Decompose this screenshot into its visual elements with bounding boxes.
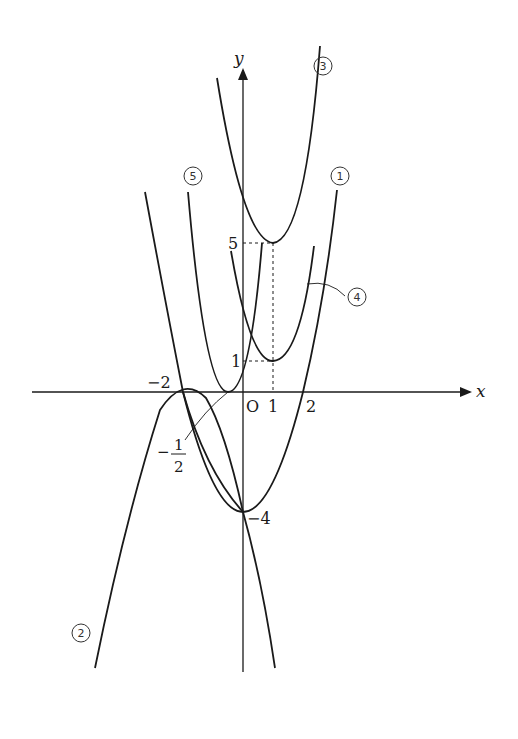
tick-y-5: 5 [228, 234, 238, 253]
curve-steep [145, 192, 275, 668]
curve-3 [217, 46, 320, 243]
x-axis-label: x [476, 381, 486, 401]
svg-text:2: 2 [78, 627, 85, 640]
frac-sign: − [157, 443, 170, 461]
frac-numerator: 1 [174, 436, 184, 454]
tick-y-neg4: −4 [247, 509, 271, 528]
frac-denominator: 2 [174, 458, 184, 476]
curve-label-5: 5 [184, 167, 202, 185]
tick-y-1: 1 [231, 352, 241, 371]
curve-label-1: 1 [331, 167, 349, 185]
tick-x-1: 1 [268, 397, 278, 416]
svg-text:1: 1 [337, 170, 344, 183]
curve-label-3: 3 [314, 57, 332, 75]
curve-5 [188, 192, 262, 392]
tick-x-neg2: −2 [147, 373, 171, 392]
tick-x-2: 2 [306, 397, 316, 416]
curve-2 [95, 389, 243, 668]
svg-text:5: 5 [190, 170, 197, 183]
y-axis-label: y [233, 48, 244, 68]
leader-curve-4 [307, 283, 345, 296]
curve-label-2: 2 [72, 624, 90, 642]
guide-y5 [243, 243, 273, 392]
svg-text:3: 3 [320, 60, 327, 73]
svg-text:4: 4 [354, 291, 361, 304]
graph-canvas: y x O −2 1 2 5 1 −4 − 1 2 3 5 1 4 2 [0, 0, 518, 739]
curve-label-4: 4 [348, 288, 366, 306]
origin-label: O [246, 397, 259, 416]
